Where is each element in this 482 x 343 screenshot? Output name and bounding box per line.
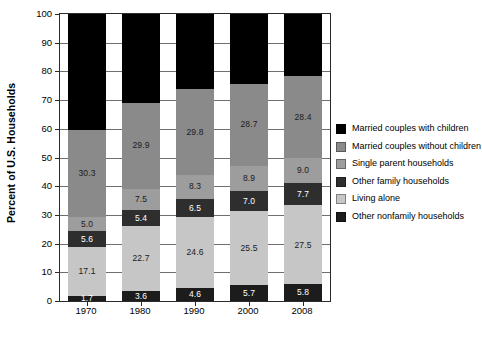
bar-segment: 28.4 (284, 76, 322, 158)
x-axis-label-2000: 2000 (218, 306, 278, 316)
legend-label: Living alone (352, 194, 400, 204)
segment-value-label: 4.6 (189, 290, 201, 299)
bar-segment: 5.0 (68, 217, 106, 231)
bar-segment: 8.3 (176, 175, 214, 199)
y-axis-tick-label: 70 (41, 95, 52, 105)
segment-value-label: 1.7 (81, 294, 93, 303)
segment-value-label: 27.5 (295, 241, 312, 250)
legend-label: Other family households (352, 177, 449, 187)
bar-segment: 4.6 (176, 288, 214, 301)
bar-segment: 9.0 (284, 158, 322, 184)
legend-swatch-icon (336, 124, 346, 134)
bar-segment: 7.7 (284, 183, 322, 205)
y-axis-tick-label: 80 (41, 67, 52, 77)
segment-value-label: 6.5 (189, 204, 201, 213)
bar-segment: 3.6 (122, 291, 160, 301)
segment-value-label: 28.7 (241, 120, 258, 129)
bar-1980[interactable]: 3.622.75.47.529.9 (122, 14, 160, 301)
x-axis-label-2008: 2008 (272, 306, 332, 316)
bar-segment: 17.1 (68, 247, 106, 296)
segment-value-label: 17.1 (79, 267, 96, 276)
bar-segment (68, 14, 106, 130)
bar-segment (284, 14, 322, 76)
bar-segment: 7.5 (122, 189, 160, 211)
segment-value-label: 25.5 (241, 244, 258, 253)
y-axis-tick (55, 301, 60, 302)
bar-segment: 30.3 (68, 130, 106, 217)
bar-1990[interactable]: 4.624.66.58.329.8 (176, 14, 214, 301)
y-axis-tick-label: 40 (41, 181, 52, 191)
segment-value-label: 22.7 (133, 254, 150, 263)
bar-segment: 5.6 (68, 231, 106, 247)
bar-segment: 1.7 (68, 296, 106, 301)
y-axis-tick-label: 10 (41, 268, 52, 278)
segment-value-label: 7.5 (135, 195, 147, 204)
legend-swatch-icon (336, 212, 346, 222)
segment-value-label: 5.6 (81, 235, 93, 244)
segment-value-label: 7.0 (243, 197, 255, 206)
y-axis-tick-label: 60 (41, 124, 52, 134)
segment-value-label: 7.7 (297, 190, 309, 199)
bar-segment (230, 14, 268, 83)
segment-value-label: 5.8 (297, 288, 309, 297)
y-axis-tick-label: 50 (41, 153, 52, 163)
bar-segment: 25.5 (230, 211, 268, 284)
legend-label: Single parent households (352, 159, 454, 169)
y-axis-tick-label: 100 (36, 9, 52, 19)
legend-swatch-icon (336, 194, 346, 204)
bar-segment: 5.4 (122, 210, 160, 225)
bar-segment: 8.9 (230, 166, 268, 192)
legend-item[interactable]: Other family households (336, 177, 482, 187)
bar-segment (176, 14, 214, 89)
legend-item[interactable]: Married couples with children (336, 124, 482, 134)
plot-area: 0102030405060708090100 1.717.15.65.030.3… (59, 13, 331, 302)
bar-segment (122, 14, 160, 103)
segment-value-label: 5.7 (243, 289, 255, 298)
bar-2008[interactable]: 5.827.57.79.028.4 (284, 14, 322, 301)
segment-value-label: 5.4 (135, 214, 147, 223)
bar-2000[interactable]: 5.725.57.08.928.7 (230, 14, 268, 301)
bar-segment: 29.8 (176, 89, 214, 175)
bar-1970[interactable]: 1.717.15.65.030.3 (68, 14, 106, 301)
y-axis-tick-label: 20 (41, 239, 52, 249)
segment-value-label: 28.4 (295, 113, 312, 122)
bar-segment: 29.9 (122, 103, 160, 189)
bar-segment: 28.7 (230, 84, 268, 166)
bar-segment: 6.5 (176, 199, 214, 218)
legend-item[interactable]: Single parent households (336, 159, 482, 169)
segment-value-label: 9.0 (297, 166, 309, 175)
bar-segment: 27.5 (284, 205, 322, 284)
y-axis-tick-label: 0 (47, 296, 52, 306)
legend-label: Married couples with children (352, 124, 469, 134)
y-axis-title: Percent of U.S. Households (2, 48, 20, 258)
bar-segment: 24.6 (176, 217, 214, 288)
segment-value-label: 5.0 (81, 220, 93, 229)
segment-value-label: 29.9 (133, 141, 150, 150)
chart-legend: Married couples with childrenMarried cou… (336, 124, 482, 230)
legend-item[interactable]: Other nonfamily households (336, 212, 482, 222)
legend-swatch-icon (336, 142, 346, 152)
legend-label: Married couples without children (352, 142, 481, 152)
segment-value-label: 24.6 (187, 248, 204, 257)
y-axis-tick-label: 30 (41, 210, 52, 220)
bar-segment: 7.0 (230, 191, 268, 211)
bar-segment: 5.8 (284, 284, 322, 301)
segment-value-label: 29.8 (187, 128, 204, 137)
segment-value-label: 3.6 (135, 292, 147, 301)
segment-value-label: 8.3 (189, 182, 201, 191)
segment-value-label: 30.3 (79, 169, 96, 178)
x-axis-label-1990: 1990 (164, 306, 224, 316)
y-axis-tick-label: 90 (41, 38, 52, 48)
segment-value-label: 8.9 (243, 174, 255, 183)
bar-segment: 22.7 (122, 226, 160, 291)
stacked-bar-chart: Percent of U.S. Households 0102030405060… (0, 0, 482, 343)
legend-swatch-icon (336, 159, 346, 169)
bars-layer: 1.717.15.65.030.33.622.75.47.529.94.624.… (60, 14, 330, 301)
bar-segment: 5.7 (230, 285, 268, 301)
x-axis-label-1970: 1970 (56, 306, 116, 316)
legend-swatch-icon (336, 177, 346, 187)
x-axis-label-1980: 1980 (110, 306, 170, 316)
legend-item[interactable]: Living alone (336, 194, 482, 204)
legend-label: Other nonfamily households (352, 212, 464, 222)
legend-item[interactable]: Married couples without children (336, 142, 482, 152)
